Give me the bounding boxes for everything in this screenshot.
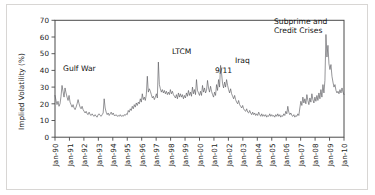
x-tick-label: Jan-09 xyxy=(326,143,335,167)
chart-annotations: Gulf War LTCM 9/11 Iraq Subprime and Cre… xyxy=(63,17,327,75)
x-tick-label: Jan-07 xyxy=(297,144,306,168)
x-tick-label: Jan-10 xyxy=(340,143,349,167)
y-axis-title: Implied Volatility (%) xyxy=(17,53,26,130)
x-tick-label: Jan-01 xyxy=(210,144,219,168)
x-tick-label: Jan-05 xyxy=(268,144,277,168)
x-tick-label: Jan-92 xyxy=(80,144,89,168)
x-axis-tick-labels: Jan-90 Jan-91 Jan-92 Jan-93 Jan-94 Jan-9… xyxy=(51,143,349,167)
y-tick-label: 30 xyxy=(40,83,50,92)
x-tick-label: Jan-04 xyxy=(254,143,263,167)
annotation-gulf-war: Gulf War xyxy=(63,64,97,73)
x-tick-label: Jan-97 xyxy=(152,144,161,168)
y-tick-label: 70 xyxy=(40,16,50,25)
x-tick-label: Jan-08 xyxy=(311,143,320,167)
x-tick-label: Jan-91 xyxy=(66,144,75,168)
annotation-subprime-line2: Credit Crises xyxy=(274,26,322,35)
x-tick-label: Jan-96 xyxy=(138,143,147,167)
x-tick-label: Jan-02 xyxy=(225,144,234,168)
x-tick-label: Jan-99 xyxy=(181,143,190,167)
x-tick-label: Jan-98 xyxy=(167,143,176,167)
x-tick-label: Jan-94 xyxy=(109,143,118,167)
x-tick-label: Jan-00 xyxy=(196,143,205,167)
plot-area-frame xyxy=(55,20,344,137)
x-tick-label: Jan-93 xyxy=(95,144,104,168)
y-tick-label: 10 xyxy=(40,116,50,125)
y-tick-label: 20 xyxy=(40,100,50,109)
implied-volatility-line-chart: Implied Volatility (%) 70 60 50 40 30 20… xyxy=(0,0,375,195)
annotation-subprime-line1: Subprime and xyxy=(274,17,327,26)
y-axis-ticks: 70 60 50 40 30 20 10 0 xyxy=(40,16,55,142)
y-tick-label: 0 xyxy=(44,133,49,142)
volatility-series-line xyxy=(55,35,344,118)
chart-figure: Implied Volatility (%) 70 60 50 40 30 20… xyxy=(0,0,375,195)
y-tick-label: 40 xyxy=(40,66,50,75)
x-tick-label: Jan-95 xyxy=(123,144,132,168)
x-tick-label: Jan-06 xyxy=(282,143,291,167)
annotation-iraq: Iraq xyxy=(235,56,250,65)
x-tick-label: Jan-90 xyxy=(51,143,60,167)
y-tick-label: 50 xyxy=(40,49,50,58)
x-axis-ticks xyxy=(55,137,344,141)
annotation-ltcm: LTCM xyxy=(172,47,191,56)
x-tick-label: Jan-03 xyxy=(239,144,248,168)
y-tick-label: 60 xyxy=(40,33,50,42)
annotation-nine-eleven: 9/11 xyxy=(215,66,232,75)
